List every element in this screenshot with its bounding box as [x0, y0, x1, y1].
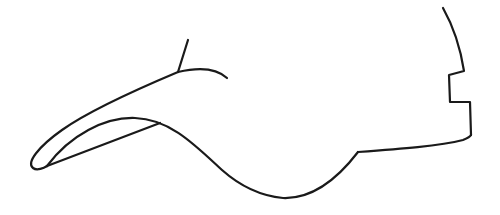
crown-seam — [178, 40, 188, 72]
brim-underside-curve — [47, 118, 358, 198]
bottom-band — [358, 135, 471, 152]
cap-line-drawing — [0, 0, 500, 215]
drawing-canvas: baseball cap side profile line drawing — [0, 0, 500, 215]
crown-top-curve — [178, 69, 227, 78]
back-strap-notch — [443, 8, 471, 135]
